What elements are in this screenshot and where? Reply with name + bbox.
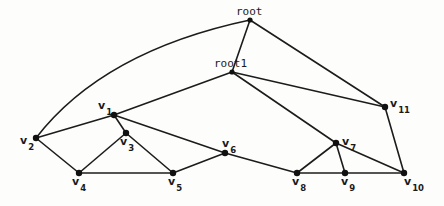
node-label-base: v (390, 97, 397, 110)
node-label-base: v (404, 175, 411, 188)
node-label-subscript: 11 (398, 105, 410, 115)
node-label-v5: v5 (168, 176, 182, 187)
node-label-base: root (236, 5, 263, 18)
node-root (247, 17, 252, 22)
node-label-subscript: 8 (300, 183, 306, 193)
node-v11 (382, 104, 388, 110)
edges-layer (0, 0, 444, 206)
node-label-base: v (72, 175, 79, 188)
node-label-base: v (98, 99, 105, 112)
node-label-v11: v11 (390, 98, 410, 109)
node-v7 (333, 140, 339, 146)
edge-root-v11 (250, 20, 385, 107)
edge-root1-v1 (114, 72, 232, 115)
edge-root-v2 (36, 20, 250, 138)
node-label-v4: v4 (72, 176, 86, 187)
node-label-subscript: 2 (28, 142, 34, 152)
node-root1 (229, 69, 234, 74)
node-label-v6: v6 (222, 138, 236, 149)
edge-v5-v6 (173, 153, 225, 173)
node-label-v1: v1 (98, 100, 112, 111)
node-label-v3: v3 (120, 136, 134, 147)
node-label-subscript: 6 (230, 145, 236, 155)
node-label-subscript: 10 (412, 183, 424, 193)
node-label-subscript: 3 (128, 143, 134, 153)
node-label-root1: root1 (214, 58, 247, 69)
node-label-base: v (20, 134, 27, 147)
node-label-v7: v7 (342, 136, 356, 147)
edge-root1-v11 (232, 72, 385, 107)
edge-root1-v7 (232, 72, 336, 143)
node-label-v10: v10 (404, 176, 424, 187)
node-label-base: v (120, 135, 127, 148)
node-label-base: v (168, 175, 175, 188)
edge-v1-v2 (36, 115, 114, 138)
node-label-base: v (222, 137, 229, 150)
node-label-root: root (236, 6, 263, 17)
edge-v10-v11 (385, 107, 404, 173)
edge-v3-v4 (79, 133, 126, 173)
node-label-subscript: 9 (349, 183, 355, 193)
node-label-subscript: 5 (176, 183, 182, 193)
node-label-base: v (342, 135, 349, 148)
graph-diagram: rootroot1v1v2v3v4v5v6v7v8v9v10v11 (0, 0, 444, 206)
node-label-base: root1 (214, 57, 247, 70)
node-label-subscript: 1 (106, 107, 112, 117)
node-label-v2: v2 (20, 135, 34, 146)
edge-v6-v8 (225, 153, 297, 173)
node-label-subscript: 4 (80, 183, 86, 193)
edge-v8-v7 (297, 143, 336, 173)
node-label-subscript: 7 (350, 143, 356, 153)
node-label-base: v (292, 175, 299, 188)
node-label-base: v (341, 175, 348, 188)
edge-v2-v4 (36, 138, 79, 173)
node-label-v8: v8 (292, 176, 306, 187)
node-v6 (222, 150, 228, 156)
node-label-v9: v9 (341, 176, 355, 187)
